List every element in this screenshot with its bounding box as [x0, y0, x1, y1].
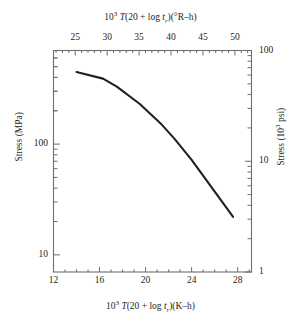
data-series-line [77, 72, 234, 217]
tick-label-top-45: 45 [198, 33, 208, 43]
tick-label-left-10: 10 [39, 250, 49, 260]
tick-label-right-1: 1 [259, 267, 264, 277]
tick-label-bottom-16: 16 [95, 276, 105, 286]
tick-label-top-35: 35 [134, 33, 144, 43]
tick-label-right-100: 100 [259, 46, 273, 56]
tick-label-left-100: 100 [34, 139, 48, 149]
tick-label-bottom-12: 12 [49, 276, 59, 286]
chart-figure: 103 T(20 + log tr)(°R–h) 103 T(20 + log … [0, 0, 301, 331]
tick-label-top-25: 25 [70, 33, 80, 43]
tick-label-right-10: 10 [259, 157, 269, 167]
tick-label-top-30: 30 [102, 33, 112, 43]
tick-marks-group [54, 51, 252, 273]
tick-label-bottom-24: 24 [187, 276, 197, 286]
plot-frame [54, 51, 252, 273]
tick-label-top-40: 40 [166, 33, 176, 43]
tick-label-bottom-28: 28 [233, 276, 243, 286]
tick-label-top-50: 50 [230, 33, 240, 43]
tick-label-bottom-20: 20 [141, 276, 151, 286]
